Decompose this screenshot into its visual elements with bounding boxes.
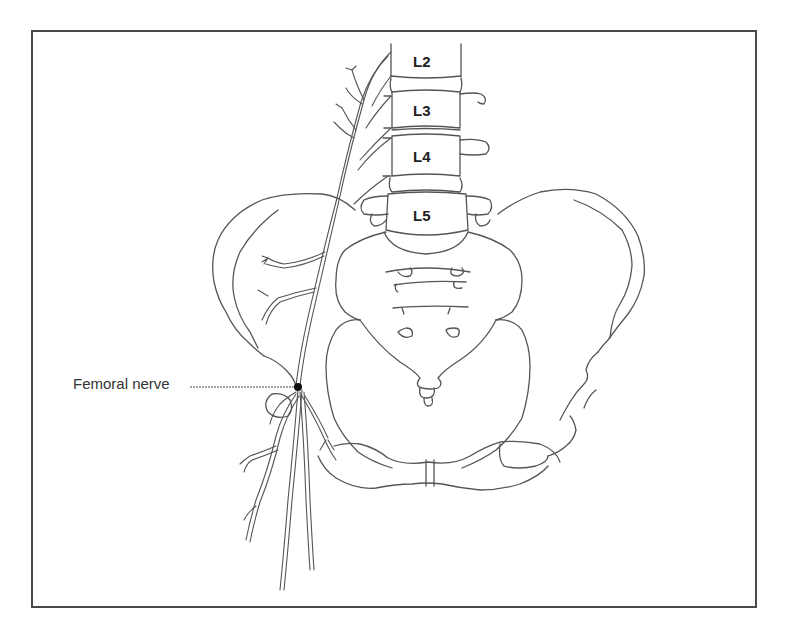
- pelvis-spine-illustration: [0, 0, 789, 634]
- femoral-nerve-branches: [240, 390, 336, 590]
- vertebra-label-l5: L5: [413, 207, 431, 224]
- vertebra-label-l4: L4: [413, 148, 431, 165]
- femoral-nerve-annotation: [190, 383, 302, 391]
- pubis: [318, 416, 576, 490]
- vertebra-label-l3: L3: [413, 102, 431, 119]
- vertebra-label-l2: L2: [413, 53, 431, 70]
- right-ilium: [462, 189, 644, 468]
- femoral-nerve-marker: [294, 383, 302, 391]
- femoral-nerve-label: Femoral nerve: [73, 375, 170, 392]
- sacrum: [336, 232, 522, 406]
